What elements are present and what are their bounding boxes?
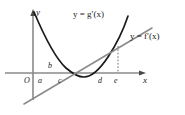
tick-label-e: e (114, 77, 118, 85)
curve-label-f-prime: y = f′(x) (130, 32, 160, 41)
x-axis-label: x (143, 76, 147, 85)
y-axis-label: y (36, 8, 40, 17)
curve-label-g-prime: y = g′(x) (73, 10, 104, 19)
tick-label-a: a (38, 77, 42, 85)
tick-label-c: c (58, 77, 62, 85)
y-axis (30, 9, 35, 100)
tick-label-b: b (48, 62, 52, 70)
tick-label-d: d (98, 77, 102, 85)
math-graph-figure: y x O a b c d e y = g′(x) y = f′(x) (0, 0, 185, 115)
origin-label: O (24, 77, 30, 85)
